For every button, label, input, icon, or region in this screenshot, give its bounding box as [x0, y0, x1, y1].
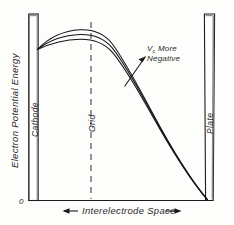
- diagram-canvas: Vc More Negative Electron Potential Ener…: [0, 0, 234, 225]
- vc-negative-text: Negative: [147, 54, 181, 63]
- grid-label: Grid: [87, 114, 97, 132]
- origin-label: 0: [19, 197, 24, 206]
- x-axis-label-group: Interelectrode Space: [63, 205, 182, 216]
- plate-label: Plate: [205, 113, 215, 134]
- cathode-label: Cathode: [30, 102, 40, 137]
- x-axis-title: Interelectrode Space: [82, 205, 176, 216]
- axis-group: [28, 14, 213, 201]
- vc-annotation-text: Vc More Negative: [147, 44, 181, 63]
- potential-energy-curves: [37, 30, 207, 200]
- vc-more-text: More: [156, 44, 178, 53]
- curve-least-negative: [37, 30, 207, 200]
- svg-text:Vc More: Vc More: [147, 44, 177, 54]
- y-axis-title: Electron Potential Energy: [9, 52, 20, 168]
- potential-energy-diagram: Vc More Negative Electron Potential Ener…: [0, 0, 234, 225]
- plate-electrode: [204, 14, 214, 201]
